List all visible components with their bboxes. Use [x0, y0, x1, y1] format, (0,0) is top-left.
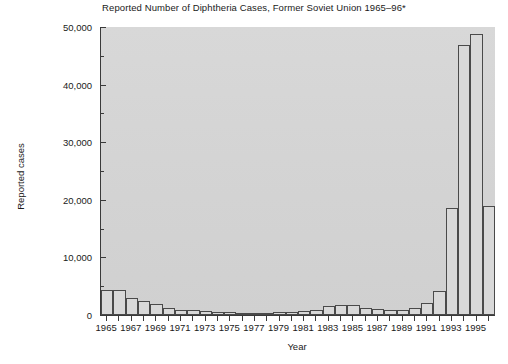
x-axis-tick-label: 1967: [120, 322, 141, 333]
y-axis-tick-label: 40,000: [63, 79, 92, 90]
bar-1985: [347, 305, 359, 315]
x-axis-tick: [118, 315, 119, 321]
x-axis-tick: [315, 315, 316, 321]
x-axis-tick: [463, 315, 464, 321]
bar-series: [101, 27, 495, 315]
y-axis-tick: [100, 27, 106, 28]
x-axis-tick: [180, 315, 181, 321]
bar-1986: [360, 308, 372, 315]
x-axis-tick: [106, 315, 107, 321]
x-axis-tick: [439, 315, 440, 321]
x-axis-tick: [192, 315, 193, 321]
plot-area: [100, 27, 495, 316]
x-axis-tick-label: 1985: [342, 322, 363, 333]
bar-1994: [458, 45, 470, 315]
bar-1983: [323, 306, 335, 315]
x-axis-tick-label: 1993: [440, 322, 461, 333]
x-axis-tick: [340, 315, 341, 321]
x-axis-tick: [488, 315, 489, 321]
x-axis-tick: [143, 315, 144, 321]
x-axis-tick-label: 1989: [391, 322, 412, 333]
x-axis-tick: [131, 315, 132, 321]
x-axis-tick: [352, 315, 353, 321]
x-axis-tick: [476, 315, 477, 321]
bar-1971: [175, 310, 187, 315]
x-axis-tick: [303, 315, 304, 321]
x-axis-tick-label: 1965: [96, 322, 117, 333]
x-axis-tick-label: 1973: [194, 322, 215, 333]
x-axis-tick-label: 1979: [268, 322, 289, 333]
x-axis-tick: [414, 315, 415, 321]
x-axis-tick: [242, 315, 243, 321]
y-axis-minor-tick: [100, 229, 104, 230]
bar-1965: [101, 290, 113, 315]
x-axis-tick-label: 1971: [169, 322, 190, 333]
bar-1980: [286, 312, 298, 315]
bar-1989: [397, 310, 409, 315]
y-axis-tick: [100, 142, 106, 143]
x-axis-tick: [168, 315, 169, 321]
x-axis-title: Year: [100, 341, 494, 352]
bar-1988: [384, 310, 396, 315]
bar-1976: [236, 313, 248, 315]
y-axis-tick: [100, 85, 106, 86]
x-axis-tick: [229, 315, 230, 321]
x-axis-tick-label: 1977: [243, 322, 264, 333]
y-axis-minor-tick: [100, 56, 104, 57]
bar-1996: [483, 206, 495, 315]
bar-1970: [163, 308, 175, 315]
x-axis-tick-label: 1987: [366, 322, 387, 333]
x-axis-tick: [402, 315, 403, 321]
bar-1982: [310, 310, 322, 315]
bar-1990: [409, 308, 421, 315]
bar-1979: [273, 312, 285, 315]
x-axis-tick-label: 1969: [145, 322, 166, 333]
y-axis-tick: [100, 200, 106, 201]
y-axis-tick-label: 30,000: [63, 137, 92, 148]
bar-1975: [224, 312, 236, 315]
x-axis-tick: [389, 315, 390, 321]
bar-1978: [261, 313, 273, 315]
y-axis: Reported cases 010,00020,00030,00040,000…: [0, 0, 100, 364]
bar-1966: [113, 290, 125, 315]
y-axis-minor-tick: [100, 171, 104, 172]
bar-1972: [187, 310, 199, 315]
bar-1968: [138, 301, 150, 315]
y-axis-tick-label: 20,000: [63, 194, 92, 205]
bar-1992: [433, 291, 445, 315]
x-axis-tick: [217, 315, 218, 321]
y-axis-tick: [100, 315, 106, 316]
x-axis-tick: [254, 315, 255, 321]
x-axis-tick-label: 1991: [416, 322, 437, 333]
x-axis-tick: [365, 315, 366, 321]
x-axis-tick: [155, 315, 156, 321]
y-axis-tick: [100, 257, 106, 258]
bar-1981: [298, 311, 310, 315]
bar-1967: [126, 298, 138, 315]
x-axis-tick-label: 1983: [317, 322, 338, 333]
y-axis-tick-label: 10,000: [63, 252, 92, 263]
x-axis-tick: [426, 315, 427, 321]
y-axis-tick-label: 50,000: [63, 22, 92, 33]
x-axis-tick-label: 1981: [293, 322, 314, 333]
bar-1969: [150, 304, 162, 315]
y-axis-title: Reported cases: [15, 127, 26, 227]
bar-1973: [200, 311, 212, 315]
x-axis-tick-label: 1975: [219, 322, 240, 333]
bar-1984: [335, 305, 347, 315]
y-axis-tick-label: 0: [87, 310, 92, 321]
bar-1974: [212, 312, 224, 315]
x-axis-tick: [377, 315, 378, 321]
diphtheria-cases-bar-chart: Reported Number of Diphtheria Cases, For…: [0, 0, 508, 364]
bar-1993: [446, 208, 458, 315]
x-axis-tick: [205, 315, 206, 321]
bar-1977: [249, 313, 261, 315]
y-axis-minor-tick: [100, 286, 104, 287]
bar-1987: [372, 309, 384, 315]
x-axis-tick: [291, 315, 292, 321]
x-axis-tick-label: 1995: [465, 322, 486, 333]
y-axis-minor-tick: [100, 113, 104, 114]
x-axis-tick: [279, 315, 280, 321]
x-axis-tick: [451, 315, 452, 321]
x-axis-tick: [266, 315, 267, 321]
